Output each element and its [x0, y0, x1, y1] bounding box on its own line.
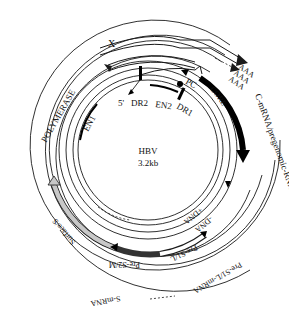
pc-label: PC: [184, 76, 199, 90]
en2-marker: [150, 85, 178, 92]
en2-label: EN2: [155, 99, 173, 111]
dr1-label: DR1: [175, 101, 195, 118]
c-mrna-label: C-mRNA/pregenomic-RNA: [253, 92, 289, 192]
x-label: X: [108, 38, 116, 49]
regulatory-elements: 5' DR2 EN2 DR1 PC EN1: [80, 66, 199, 140]
surface-gene: Surface/S: [48, 176, 115, 248]
pc-dot: [177, 81, 183, 87]
core-label: CORE: [208, 85, 228, 108]
five-prime-label: 5': [118, 98, 125, 108]
dr2-label: DR2: [131, 98, 148, 108]
dr2-marker: [139, 66, 142, 80]
pre-s2-label: Pre-S2/M: [109, 260, 140, 269]
en1-label: EN1: [81, 114, 98, 133]
genome-size: 3.2kb: [138, 158, 159, 168]
s-mrna-label: S-mRNA: [90, 294, 122, 308]
dr1-marker: [177, 87, 185, 100]
hbv-genome-map: X AAA AAA AAA CORE 5' DR2 EN2 DR1 PC E: [0, 0, 289, 329]
genome-name: HBV: [138, 146, 158, 156]
